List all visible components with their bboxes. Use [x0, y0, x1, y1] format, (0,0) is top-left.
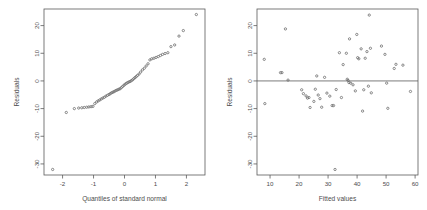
x-tick-label: 0 — [123, 180, 127, 187]
y-tick-label: -10 — [247, 104, 254, 114]
data-point — [367, 85, 369, 87]
x-tick-label: 2 — [185, 180, 189, 187]
data-point — [342, 63, 344, 65]
data-point — [264, 102, 266, 104]
data-point — [348, 38, 350, 40]
data-point — [308, 96, 310, 98]
data-point — [363, 89, 365, 91]
data-point — [384, 53, 386, 55]
x-tick-label: 40 — [354, 180, 361, 187]
y-tick-label: 20 — [247, 22, 254, 29]
x-tick-label: 1 — [154, 180, 158, 187]
data-point — [364, 57, 366, 59]
data-point — [167, 52, 169, 54]
data-point — [335, 88, 337, 90]
qq-plot-panel: -2-1012-30-20-1001020Quantiles of standa… — [0, 0, 213, 210]
x-axis-title: Fitted values — [319, 195, 357, 202]
y-tick-label: -20 — [34, 131, 41, 141]
residual-plot-panel: 102030405060-30-20-1001020Fitted valuesR… — [213, 0, 426, 210]
data-point — [174, 44, 176, 46]
x-tick-label: -2 — [60, 180, 66, 187]
x-tick-label: 10 — [267, 180, 274, 187]
x-tick-label: 20 — [296, 180, 303, 187]
data-point — [319, 97, 321, 99]
data-point — [92, 105, 94, 107]
data-point — [360, 48, 362, 50]
data-point — [305, 95, 307, 97]
data-point — [350, 82, 352, 84]
data-point — [170, 45, 172, 47]
data-point — [338, 52, 340, 54]
data-point — [284, 28, 286, 30]
qq-plot-svg: -2-1012-30-20-1001020Quantiles of standa… — [0, 0, 213, 210]
data-point — [83, 106, 85, 108]
y-tick-label: 10 — [34, 49, 41, 56]
data-point — [195, 13, 197, 15]
data-point — [386, 82, 388, 84]
y-tick-label: -10 — [34, 104, 41, 114]
x-tick-label: -1 — [91, 180, 97, 187]
x-tick-label: 60 — [412, 180, 419, 187]
data-point — [402, 64, 404, 66]
data-point — [73, 107, 75, 109]
residual-plot-svg: 102030405060-30-20-1001020Fitted valuesR… — [213, 0, 426, 210]
data-point — [52, 168, 54, 170]
data-point — [143, 67, 145, 69]
data-point — [358, 58, 360, 60]
data-point — [340, 96, 342, 98]
x-tick-label: 30 — [325, 180, 332, 187]
data-point-group — [263, 14, 412, 171]
y-tick-label: -20 — [247, 131, 254, 141]
data-point — [326, 92, 328, 94]
data-point — [366, 50, 368, 52]
figure-panel-container: -2-1012-30-20-1001020Quantiles of standa… — [0, 0, 427, 210]
data-point — [370, 92, 372, 94]
data-point — [321, 106, 323, 108]
y-axis-title: Residuals — [13, 77, 20, 107]
data-point — [81, 107, 83, 109]
x-axis-title: Quantiles of standard normal — [82, 195, 167, 203]
data-point — [323, 76, 325, 78]
data-point — [313, 100, 315, 102]
data-point — [302, 93, 304, 95]
data-point — [164, 52, 166, 54]
data-point — [309, 106, 311, 108]
data-point — [361, 110, 363, 112]
data-point — [178, 35, 180, 37]
y-tick-label: 0 — [247, 79, 254, 83]
data-point — [139, 71, 141, 73]
data-point — [409, 90, 411, 92]
data-point — [354, 90, 356, 92]
data-point — [263, 58, 265, 60]
data-point-group — [52, 13, 198, 170]
plot-frame — [44, 9, 205, 175]
data-point — [393, 67, 395, 69]
data-point — [65, 111, 67, 113]
data-point — [316, 75, 318, 77]
data-point — [352, 84, 354, 86]
data-point — [78, 107, 80, 109]
data-point — [317, 94, 319, 96]
data-point — [334, 168, 336, 170]
data-point — [301, 89, 303, 91]
y-tick-label: 10 — [247, 49, 254, 56]
data-point — [356, 33, 358, 35]
data-point — [147, 63, 149, 65]
data-point — [395, 63, 397, 65]
data-point — [314, 88, 316, 90]
data-point — [368, 14, 370, 16]
y-tick-label: -30 — [34, 159, 41, 169]
plot-frame — [257, 9, 418, 175]
data-point — [380, 45, 382, 47]
data-point — [182, 29, 184, 31]
y-tick-label: -30 — [247, 159, 254, 169]
data-point — [329, 95, 331, 97]
data-point — [161, 53, 163, 55]
y-tick-label: 0 — [34, 79, 41, 83]
data-point — [369, 47, 371, 49]
y-axis-title: Residuals — [226, 77, 233, 107]
data-point — [287, 79, 289, 81]
data-point — [345, 52, 347, 54]
data-point — [387, 107, 389, 109]
y-tick-label: 20 — [34, 22, 41, 29]
